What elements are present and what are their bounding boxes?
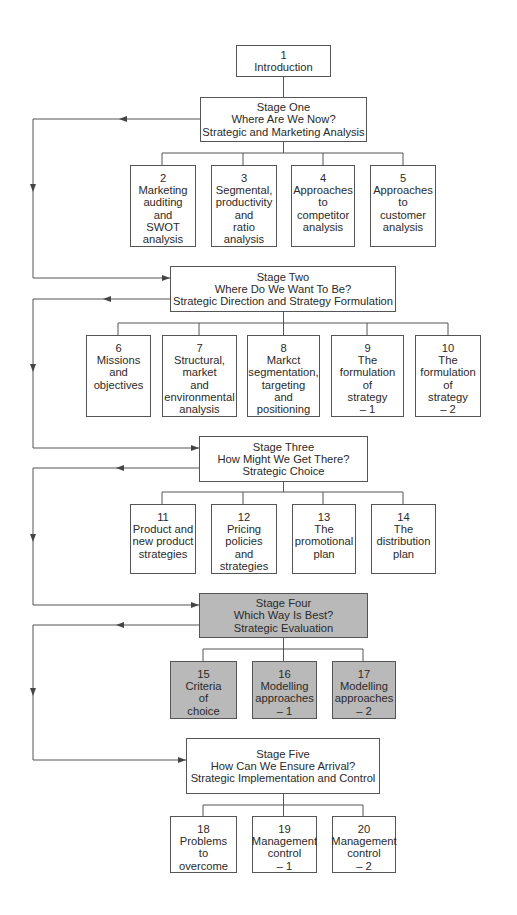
chapter-line: Pricing xyxy=(227,523,261,535)
chapter-number: 19 xyxy=(278,823,290,835)
chapter-line: Management xyxy=(331,835,396,847)
chapter-line: Approaches xyxy=(293,184,353,196)
chapter-line: The xyxy=(314,523,333,535)
stage-question: How Might We Get There? xyxy=(217,453,349,465)
chapter-number: 9 xyxy=(364,342,370,354)
chapter-line: of xyxy=(363,379,372,391)
chapter-20-box: 20 Management control – 2 xyxy=(332,816,396,873)
chapter-line: – 2 xyxy=(356,705,372,717)
chapter-number: 1 xyxy=(280,49,286,61)
chapter-line: policies xyxy=(225,535,262,547)
chapter-number: 10 xyxy=(442,342,454,354)
chapter-number: 15 xyxy=(197,668,209,680)
chapter-line: of xyxy=(443,379,452,391)
chapter-line: analysis xyxy=(303,221,343,233)
chapter-number: 13 xyxy=(318,511,330,523)
chapter-9-box: 9 The formulation of strategy – 1 xyxy=(331,335,404,417)
stage-label: Stage Four xyxy=(256,597,311,609)
chapter-13-box: 13 The promotional plan xyxy=(292,504,356,574)
chapter-number: 4 xyxy=(320,172,326,184)
strategic-marketing-process-diagram: 1 Introduction Stage One Where Are We No… xyxy=(0,0,517,915)
chapter-15-box: 15 Criteria of choice xyxy=(170,661,237,719)
stage-question: How Can We Ensure Arrival? xyxy=(211,760,356,772)
stage-one-box: Stage One Where Are We Now? Strategic an… xyxy=(200,97,367,142)
stage-subtitle: Strategic Direction and Strategy Formula… xyxy=(173,295,393,307)
chapter-line: and xyxy=(190,379,209,391)
chapter-7-box: 7 Structural, market and environmental a… xyxy=(162,335,237,417)
chapter-line: Modelling xyxy=(340,680,388,692)
stage-subtitle: Strategic Evaluation xyxy=(234,622,334,634)
chapter-line: Modelling xyxy=(261,680,309,692)
chapter-line: and xyxy=(235,209,254,221)
chapter-8-box: 8 Markct segmentation, targeting and pos… xyxy=(247,335,320,417)
stage-label: Stage Five xyxy=(256,748,309,760)
chapter-number: 17 xyxy=(358,668,370,680)
chapter-5-box: 5 Approaches to customer analysis xyxy=(370,165,436,247)
chapter-16-box: 16 Modelling approaches – 1 xyxy=(252,661,317,719)
chapter-line: – 1 xyxy=(360,403,376,415)
chapter-line: Problems xyxy=(180,835,227,847)
chapter-line: – 1 xyxy=(277,705,293,717)
chapter-line: Approaches xyxy=(373,184,433,196)
chapter-line: analysis xyxy=(383,221,423,233)
chapter-line: plan xyxy=(393,548,414,560)
chapter-line: analysis xyxy=(179,403,219,415)
chapter-18-box: 18 Problems to overcome xyxy=(170,816,237,873)
chapter-line: control xyxy=(347,847,381,859)
chapter-line: Criteria xyxy=(185,680,221,692)
chapter-number: 14 xyxy=(397,511,409,523)
chapter-14-box: 14 The distribution plan xyxy=(371,504,436,574)
chapter-line: analysis xyxy=(143,233,183,245)
chapter-number: 18 xyxy=(197,823,209,835)
chapter-11-box: 11 Product and new product strategies xyxy=(130,504,196,574)
stage-subtitle: Strategic and Marketing Analysis xyxy=(202,126,364,138)
chapter-line: auditing xyxy=(143,196,182,208)
chapter-line: The xyxy=(394,523,413,535)
stage-four-box: Stage Four Which Way Is Best? Strategic … xyxy=(199,593,368,638)
chapter-10-box: 10 The formulation of strategy – 2 xyxy=(415,335,481,417)
chapter-number: 8 xyxy=(280,342,286,354)
chapter-line: – 2 xyxy=(356,860,372,872)
chapter-line: approaches xyxy=(255,692,313,704)
chapter-line: strategies xyxy=(139,548,188,560)
stage-label: Stage One xyxy=(257,101,311,113)
chapter-line: distribution xyxy=(376,535,430,547)
chapter-19-box: 19 Management control – 1 xyxy=(252,816,317,873)
chapter-line: approaches xyxy=(335,692,393,704)
chapter-number: 7 xyxy=(196,342,202,354)
stage-label: Stage Three xyxy=(253,441,314,453)
chapter-line: to xyxy=(199,847,208,859)
chapter-line: Markct xyxy=(267,354,301,366)
chapter-number: 16 xyxy=(278,668,290,680)
chapter-number: 3 xyxy=(241,172,247,184)
chapter-line: The xyxy=(358,354,377,366)
chapter-line: formulation xyxy=(420,366,475,378)
chapter-12-box: 12 Pricing policies and strategies xyxy=(211,504,277,574)
chapter-line: customer xyxy=(380,209,426,221)
chapter-line: new product xyxy=(133,535,194,547)
chapter-line: segmentation, xyxy=(248,366,318,378)
chapter-line: Segmental, xyxy=(216,184,273,196)
chapter-line: Structural, xyxy=(174,354,225,366)
chapter-number: 20 xyxy=(358,823,370,835)
chapter-number: 2 xyxy=(160,172,166,184)
chapter-line: overcome xyxy=(179,860,228,872)
chapter-line: Missions xyxy=(97,354,141,366)
chapter-number: 6 xyxy=(115,342,121,354)
chapter-line: promotional xyxy=(295,535,353,547)
chapter-line: productivity xyxy=(216,196,273,208)
stage-question: Where Do We Want To Be? xyxy=(215,283,352,295)
stage-three-box: Stage Three How Might We Get There? Stra… xyxy=(199,436,368,482)
chapter-number: 5 xyxy=(400,172,406,184)
stage-five-box: Stage Five How Can We Ensure Arrival? St… xyxy=(186,738,380,794)
chapter-line: choice xyxy=(187,705,219,717)
chapter-4-box: 4 Approaches to competitor analysis xyxy=(291,165,355,247)
chapter-line: – 2 xyxy=(440,403,456,415)
chapter-line: analysis xyxy=(224,233,264,245)
stage-label: Stage Two xyxy=(257,271,310,283)
stage-subtitle: Strategic Choice xyxy=(242,465,324,477)
chapter-line: plan xyxy=(313,548,334,560)
chapter-line: strategy xyxy=(348,391,388,403)
chapter-line: positioning xyxy=(257,403,311,415)
chapter-line: market xyxy=(182,366,216,378)
